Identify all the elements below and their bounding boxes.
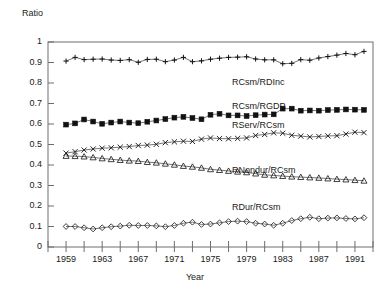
y-tick-label: 0.9 <box>12 57 42 67</box>
y-tick-label: 0.7 <box>12 98 42 108</box>
chart-container: Ratio Year 00.10.20.30.40.50.60.70.80.91… <box>0 0 390 291</box>
y-tick-label: 0.8 <box>12 77 42 87</box>
series-rcsm-rdinc <box>63 49 366 67</box>
x-tick-label: 1963 <box>82 254 122 264</box>
x-tick-label: 1979 <box>227 254 267 264</box>
series-rserv-rcsm <box>63 130 366 156</box>
x-tick-label: 1991 <box>335 254 375 264</box>
x-tick-label: 1959 <box>46 254 86 264</box>
y-tick-label: 0.3 <box>12 180 42 190</box>
series-rcsm-rgdp <box>64 106 367 127</box>
x-tick-label: 1987 <box>299 254 339 264</box>
x-tick-label: 1971 <box>154 254 194 264</box>
y-tick-label: 0.6 <box>12 118 42 128</box>
y-tick-label: 0 <box>12 241 42 251</box>
series-rnondur-rcsm <box>63 153 367 183</box>
y-tick-label: 0.5 <box>12 139 42 149</box>
series-label: RDur/RCsm <box>232 202 281 212</box>
series-label: RNondur/RCsm <box>232 165 296 175</box>
x-tick-label: 1967 <box>118 254 158 264</box>
x-tick-label: 1975 <box>191 254 231 264</box>
series-rdur-rcsm <box>63 214 367 231</box>
series-label: RServ/RCsm <box>232 120 285 130</box>
series-label: RCsm/RDInc <box>232 77 285 87</box>
y-tick-label: 0.4 <box>12 159 42 169</box>
y-tick-label: 0.2 <box>12 200 42 210</box>
y-tick-label: 1 <box>12 36 42 46</box>
series-label: RCsm/RGDP <box>232 101 286 111</box>
x-tick-label: 1983 <box>263 254 303 264</box>
plot-area <box>0 0 390 291</box>
plot-frame <box>48 42 373 247</box>
y-tick-label: 0.1 <box>12 221 42 231</box>
